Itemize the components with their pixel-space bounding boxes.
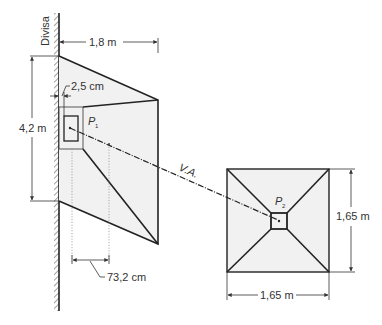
footing-p2	[227, 169, 329, 272]
property-wall	[54, 13, 59, 311]
wall-offset-label: 2,5 cm	[71, 80, 104, 92]
p1-height-label: 4,2 m	[19, 122, 47, 134]
wall-label: Divisa	[39, 15, 51, 46]
dimension-eccentricity	[72, 255, 109, 277]
p1-width-label: 1,8 m	[89, 36, 117, 48]
p2-width-label: 1,65 m	[260, 289, 294, 301]
eccentricity-label: 73,2 cm	[107, 271, 146, 283]
footing-diagram: Divisa P 1 1,8 m 4,2 m 2,5 cm	[0, 0, 382, 325]
p2-height-label: 1,65 m	[336, 210, 370, 222]
